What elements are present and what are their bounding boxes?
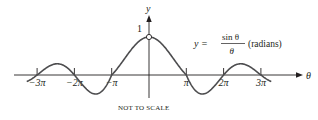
y-axis-arrowhead [146, 15, 151, 22]
function-label: y = sin θ θ (radians) [193, 32, 282, 56]
y-tick-label-1: 1 [137, 23, 142, 34]
sinc-chart: θ y −3π−2π−ππ2π3π 1 y = sin θ θ (radians… [0, 0, 318, 120]
y-axis-label: y [145, 3, 151, 14]
function-suffix: (radians) [248, 39, 282, 50]
function-numerator: sin θ [222, 32, 239, 42]
function-denominator: θ [230, 46, 235, 56]
x-axis-label: θ [306, 70, 311, 81]
function-lhs: y = [193, 38, 208, 49]
open-point-marker [146, 34, 151, 39]
not-to-scale-note: NOT TO SCALE [118, 104, 169, 112]
x-tick-label-3: π [184, 77, 190, 88]
x-axis-arrowhead [296, 72, 303, 77]
